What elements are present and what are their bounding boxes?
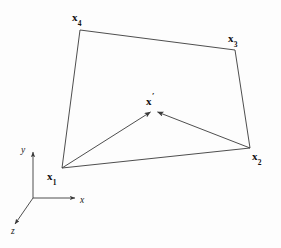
- vertex-label-x3-symbol: x: [228, 32, 234, 44]
- vertex-label-x-prime-mark: ′: [152, 91, 155, 101]
- quadrilateral-outline: [62, 30, 250, 168]
- vertex-label-x4: x4: [72, 12, 81, 26]
- interpolation-arrows: [62, 112, 250, 168]
- vertex-label-x2-subscript: 2: [258, 158, 262, 167]
- axis-label-x: x: [80, 196, 84, 206]
- vertex-label-x1-symbol: x: [47, 170, 53, 182]
- coordinate-axes: [15, 152, 75, 224]
- edge-x3-x2: [235, 50, 250, 148]
- edge-x4-x3: [80, 30, 235, 50]
- vertex-label-x4-symbol: x: [72, 11, 78, 23]
- vertex-label-x-prime-symbol: x: [146, 95, 152, 107]
- vertex-label-x-prime: x′: [146, 93, 154, 107]
- vertex-label-x1-subscript: 1: [53, 178, 57, 187]
- z-axis-line: [15, 198, 33, 224]
- vertex-label-x2: x2: [252, 151, 261, 165]
- vertex-label-x4-subscript: 4: [78, 19, 82, 28]
- vertex-label-x3-subscript: 3: [234, 40, 238, 49]
- axis-label-z: z: [11, 227, 15, 237]
- arrow-x2-to-xprime: [158, 112, 251, 148]
- vertex-label-x3: x3: [228, 33, 237, 47]
- vector-diagram: [0, 0, 281, 248]
- axis-label-y: y: [21, 146, 25, 156]
- vertex-label-x2-symbol: x: [252, 150, 258, 162]
- edge-x2-x1: [62, 148, 250, 168]
- edge-x1-x4: [62, 30, 80, 168]
- vertex-label-x1: x1: [47, 171, 56, 185]
- figure-canvas: x1 x2 x3 x4 x′ x y z: [0, 0, 281, 248]
